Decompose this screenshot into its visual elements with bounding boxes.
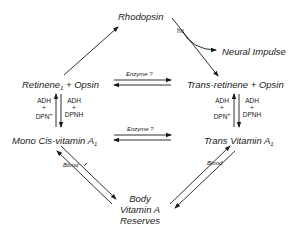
cofactor-right-down: ADH+DPNH (241, 97, 263, 118)
node-body-reserves: Body Vitamin A Reserves (118, 193, 162, 226)
label-enzyme-top: Enzyme ? (126, 71, 153, 77)
node-retinene-opsin: Retinene1 + Opsin (22, 80, 99, 91)
cofactor-left-down: ADH+DPNH (63, 97, 85, 118)
node-rhodopsin: Rhodopsin (118, 12, 163, 22)
node-neural-impulse: Neural Impulse (222, 47, 286, 57)
cofactor-right-up: ADH+DPN+ (212, 97, 232, 120)
label-blood-left: Blood (63, 162, 78, 168)
arrow-to-neural-impulse (182, 31, 216, 50)
arrow-retinene-to-rhodopsin (64, 27, 118, 75)
node-trans-retinene-opsin: Trans-retinene + Opsin (187, 80, 284, 90)
cofactor-left-up: ADH+DPN+ (34, 97, 54, 120)
node-mono-cis-vitamin: Mono Cis-vitamin A1 (12, 136, 97, 147)
label-enzyme-bottom: Enzyme ? (127, 126, 154, 132)
label-blood-right: Blood (207, 160, 222, 166)
label-hv: hν (177, 28, 184, 35)
node-trans-vitamin: Trans Vitamin A1 (204, 136, 274, 147)
